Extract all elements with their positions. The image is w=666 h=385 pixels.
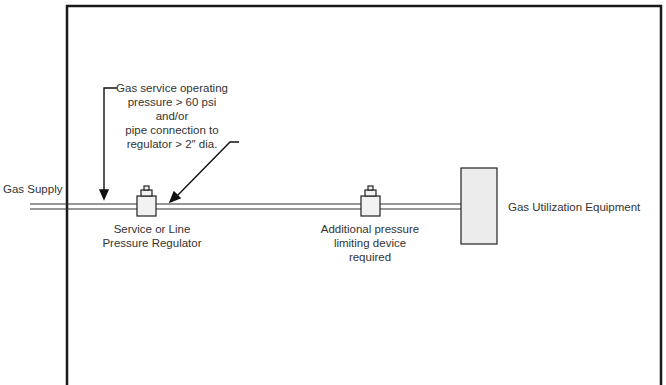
label-line: required	[310, 250, 430, 264]
annotation-line: pipe connection to	[112, 123, 232, 137]
annotation-line: and/or	[112, 109, 232, 123]
equipment-label: Gas Utilization Equipment	[508, 200, 640, 214]
service-regulator-icon	[137, 186, 156, 216]
label-line: Pressure Regulator	[92, 236, 212, 250]
pressure-limiting-device-icon	[361, 186, 380, 216]
label-line: Additional pressure	[310, 222, 430, 236]
annotation-text: Gas service operating pressure > 60 psi …	[112, 81, 232, 151]
gas-pipe	[30, 204, 461, 209]
diagram-canvas	[0, 0, 666, 385]
annotation-arrow-right	[170, 142, 239, 202]
service-regulator-label: Service or Line Pressure Regulator	[92, 222, 212, 250]
additional-device-label: Additional pressure limiting device requ…	[310, 222, 430, 264]
annotation-line: Gas service operating	[112, 81, 232, 95]
annotation-line: regulator > 2″ dia.	[112, 137, 232, 151]
label-line: limiting device	[310, 236, 430, 250]
annotation-line: pressure > 60 psi	[112, 95, 232, 109]
equipment-box	[461, 168, 497, 244]
gas-supply-label: Gas Supply	[3, 182, 62, 196]
label-line: Service or Line	[92, 222, 212, 236]
